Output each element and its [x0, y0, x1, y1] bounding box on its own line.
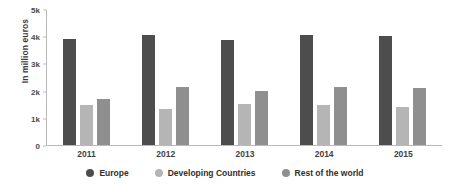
y-axis-tick-mark: [43, 118, 46, 119]
legend-item[interactable]: Rest of the world: [282, 168, 364, 178]
bar-group: [133, 10, 199, 145]
bar-groups: [47, 10, 442, 145]
legend-item[interactable]: Europe: [86, 168, 128, 178]
legend-swatch-circle-icon: [86, 169, 94, 177]
legend-swatch-circle-icon: [282, 169, 290, 177]
bar[interactable]: [379, 36, 392, 145]
bar[interactable]: [334, 87, 347, 145]
bar[interactable]: [255, 91, 268, 145]
bar[interactable]: [142, 35, 155, 145]
bar[interactable]: [80, 105, 93, 145]
y-axis-tick-mark: [43, 37, 46, 38]
bar[interactable]: [300, 35, 313, 145]
bar[interactable]: [221, 40, 234, 145]
x-axis-tick-label: 2013: [212, 149, 278, 159]
bar-group: [212, 10, 278, 145]
y-axis-tick-label: 2k: [31, 87, 40, 96]
chart-legend: EuropeDeveloping CountriesRest of the wo…: [0, 168, 450, 178]
bar[interactable]: [413, 88, 426, 145]
y-axis-tick-mark: [43, 64, 46, 65]
x-axis-tick-label: 2012: [133, 149, 199, 159]
bar-group: [370, 10, 436, 145]
bar[interactable]: [63, 39, 76, 145]
bar-group: [291, 10, 357, 145]
x-axis-labels: 20112012201320142015: [47, 149, 443, 159]
y-axis-tick-mark: [43, 146, 46, 147]
y-axis-title: In million euros: [20, 0, 30, 111]
y-axis-tick-label: 3k: [31, 60, 40, 69]
bar-chart: In million euros 01k2k3k4k5k 20112012201…: [0, 0, 450, 191]
bar[interactable]: [97, 99, 110, 145]
y-axis-tick-label: 0: [36, 142, 40, 151]
legend-label: Europe: [99, 168, 128, 178]
bar[interactable]: [396, 107, 409, 145]
y-axis-tick-label: 1k: [31, 114, 40, 123]
y-axis-tick-label: 4k: [31, 33, 40, 42]
y-axis-tick-mark: [43, 10, 46, 11]
bar[interactable]: [238, 104, 251, 145]
plot-area: 01k2k3k4k5k: [46, 10, 442, 146]
legend-label: Rest of the world: [295, 168, 364, 178]
bar[interactable]: [159, 109, 172, 145]
bar[interactable]: [176, 87, 189, 145]
legend-item[interactable]: Developing Countries: [155, 168, 256, 178]
y-axis-tick-mark: [43, 91, 46, 92]
bar-group: [54, 10, 120, 145]
x-axis-tick-label: 2015: [370, 149, 436, 159]
legend-swatch-circle-icon: [155, 169, 163, 177]
x-axis-tick-label: 2014: [291, 149, 357, 159]
legend-label: Developing Countries: [168, 168, 256, 178]
bar[interactable]: [317, 105, 330, 145]
x-axis-tick-label: 2011: [54, 149, 120, 159]
x-axis-line: [46, 145, 442, 146]
y-axis-tick-label: 5k: [31, 6, 40, 15]
